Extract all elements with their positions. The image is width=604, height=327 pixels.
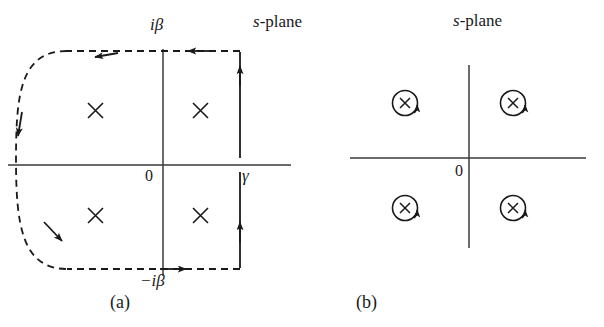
panel-a-plane-label: s-plane [253, 13, 302, 30]
contour-left-semicircular-arc [16, 51, 67, 269]
panel-a-plane-label-suffix: -plane [260, 12, 302, 31]
panel-b-plane-label-variable: s [453, 11, 460, 30]
encircled-pole-lower-right [501, 196, 526, 221]
pole-marker-upper-right [508, 98, 518, 108]
pole-marker-lower-left [88, 208, 103, 223]
label-i-beta-positive: iβ [150, 16, 163, 33]
label-i-beta-negative: −iβ [140, 272, 165, 289]
arrow-upper-arc [95, 53, 118, 57]
pole-marker-upper-left [400, 98, 410, 108]
pole-marker-lower-right [193, 208, 208, 223]
panel-a-bromwich-contour [16, 51, 240, 269]
panel-b-axes [350, 65, 586, 248]
panel-a-caption: (a) [110, 293, 130, 311]
figure-canvas [0, 0, 604, 327]
pole-arrow-lower-right [522, 210, 525, 218]
pole-arrow-upper-right [522, 105, 525, 113]
panel-b-caption: (b) [356, 293, 377, 311]
arrow-left-arc-descending [18, 112, 22, 136]
figure-root: s-plane s-plane iβ −iβ 0 γ 0 (a) (b) [0, 0, 604, 327]
contour-direction-arrowheads [18, 51, 215, 269]
panel-b-encircled-poles [393, 91, 526, 221]
encircled-pole-upper-left [393, 91, 418, 116]
panel-b-plane-label-suffix: -plane [460, 11, 502, 30]
pole-arrow-upper-left [414, 105, 417, 113]
panel-b-plane-label: s-plane [453, 12, 502, 29]
panel-a-plane-label-variable: s [253, 12, 260, 31]
pole-marker-lower-left [400, 203, 410, 213]
encircled-pole-upper-right [501, 91, 526, 116]
panel-b-origin-label: 0 [455, 163, 463, 179]
label-gamma: γ [242, 167, 249, 184]
panel-a-origin-label: 0 [145, 168, 153, 184]
encircled-pole-lower-left [393, 196, 418, 221]
pole-marker-upper-right [193, 103, 208, 118]
panel-a-poles [88, 103, 208, 223]
arrow-lower-arc [44, 222, 62, 241]
pole-arrow-lower-left [414, 210, 417, 218]
panel-a-axes [8, 49, 291, 276]
pole-marker-lower-right [508, 203, 518, 213]
pole-marker-upper-left [88, 103, 103, 118]
